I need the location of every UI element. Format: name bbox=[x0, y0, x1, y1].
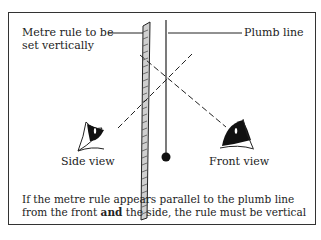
caption-line2: from the front and the side, the rule mu… bbox=[22, 206, 306, 219]
plumb-bob bbox=[162, 153, 171, 162]
caption-line2-bold: and bbox=[101, 206, 123, 218]
caption-line2-pre: from the front bbox=[22, 206, 101, 218]
metre-rule bbox=[141, 22, 150, 220]
front-view-eye-icon bbox=[220, 119, 254, 149]
ruler-label-line1: Metre rule to be bbox=[22, 27, 113, 39]
caption-line2-post: the side, the rule must be vertical bbox=[122, 206, 306, 218]
front-sight-line bbox=[140, 55, 226, 127]
caption-line1: If the metre rule appears parallel to th… bbox=[22, 193, 306, 206]
side-view-eye-icon bbox=[78, 122, 104, 151]
side-view-label: Side view bbox=[61, 156, 115, 168]
plumb-line-label: Plumb line bbox=[244, 27, 304, 39]
ruler-label-line2: set vertically bbox=[22, 40, 94, 52]
caption: If the metre rule appears parallel to th… bbox=[22, 193, 306, 219]
side-sight-line bbox=[118, 54, 192, 128]
front-view-label: Front view bbox=[209, 156, 269, 168]
